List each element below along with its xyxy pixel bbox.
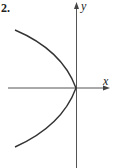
x-axis-arrow-icon [103,86,110,91]
parabola-graph [0,0,113,168]
y-axis-arrow-icon [74,2,79,9]
x-axis [8,86,110,91]
